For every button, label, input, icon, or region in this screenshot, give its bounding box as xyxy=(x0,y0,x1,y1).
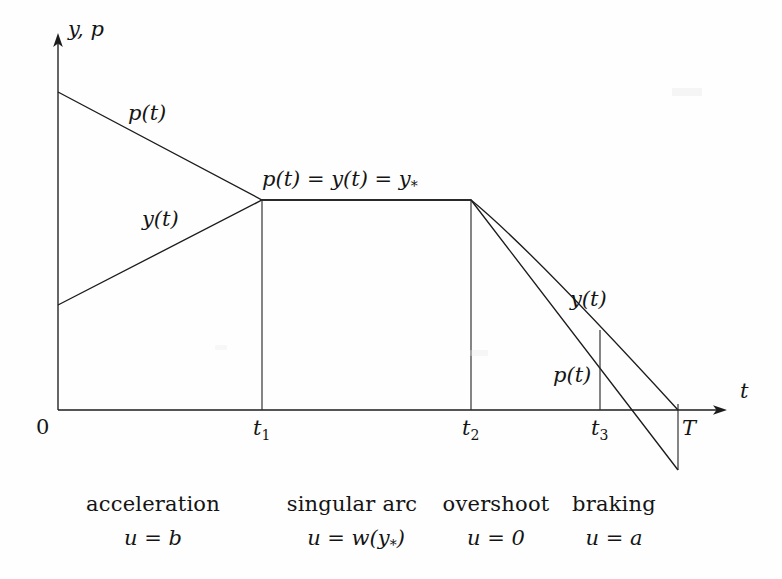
svg-text:t1: t1 xyxy=(253,416,270,443)
svg-text:t2: t2 xyxy=(462,416,479,443)
phase-name-braking: braking xyxy=(572,492,656,516)
curve-group xyxy=(58,92,678,470)
optimal-control-diagram: y, p t 0 t1 t2 t3 xyxy=(0,0,782,579)
phase-control-acceleration: u = b xyxy=(124,526,182,550)
phase-caption-group: acceleration u = b singular arc u = w(y*… xyxy=(86,492,656,553)
phase-control-overshoot: u = 0 xyxy=(467,526,525,550)
label-y-right: y(t) xyxy=(569,287,607,311)
phase-caption-braking: braking u = a xyxy=(572,492,656,550)
phase-caption-acceleration: acceleration u = b xyxy=(86,492,220,550)
tick-label-T: T xyxy=(682,416,698,440)
tick-label-t3: t3 xyxy=(591,416,608,443)
y-axis-label: y, p xyxy=(67,17,104,41)
label-p-left: p(t) xyxy=(128,101,166,125)
phase-name-acceleration: acceleration xyxy=(86,492,220,516)
label-plateau: p(t) = y(t) = y* xyxy=(262,167,418,194)
svg-text:p(t) = y(t) = y*: p(t) = y(t) = y* xyxy=(262,167,418,194)
tick-label-t2: t2 xyxy=(462,416,479,443)
tick-label-group: t1 t2 t3 T xyxy=(253,416,698,443)
curve-p-of-t xyxy=(58,92,678,470)
label-p-right: p(t) xyxy=(553,363,591,387)
phase-caption-overshoot: overshoot u = 0 xyxy=(443,492,550,550)
phase-control-singular-arc: u = w(y*) xyxy=(307,526,405,553)
phase-control-braking: u = a xyxy=(586,526,643,550)
svg-text:T: T xyxy=(682,416,698,440)
phase-caption-singular-arc: singular arc u = w(y*) xyxy=(287,492,418,553)
phase-name-singular-arc: singular arc xyxy=(287,492,418,516)
origin-label: 0 xyxy=(36,415,49,439)
phase-name-overshoot: overshoot xyxy=(443,492,550,516)
x-axis-label: t xyxy=(740,379,749,403)
tick-label-t1: t1 xyxy=(253,416,270,443)
curve-annotation-group: p(t) y(t) p(t) = y(t) = y* y(t) p(t) xyxy=(128,101,607,387)
svg-text:t3: t3 xyxy=(591,416,608,443)
figure-canvas: y, p t 0 t1 t2 t3 xyxy=(0,0,782,579)
label-y-left: y(t) xyxy=(141,207,179,231)
